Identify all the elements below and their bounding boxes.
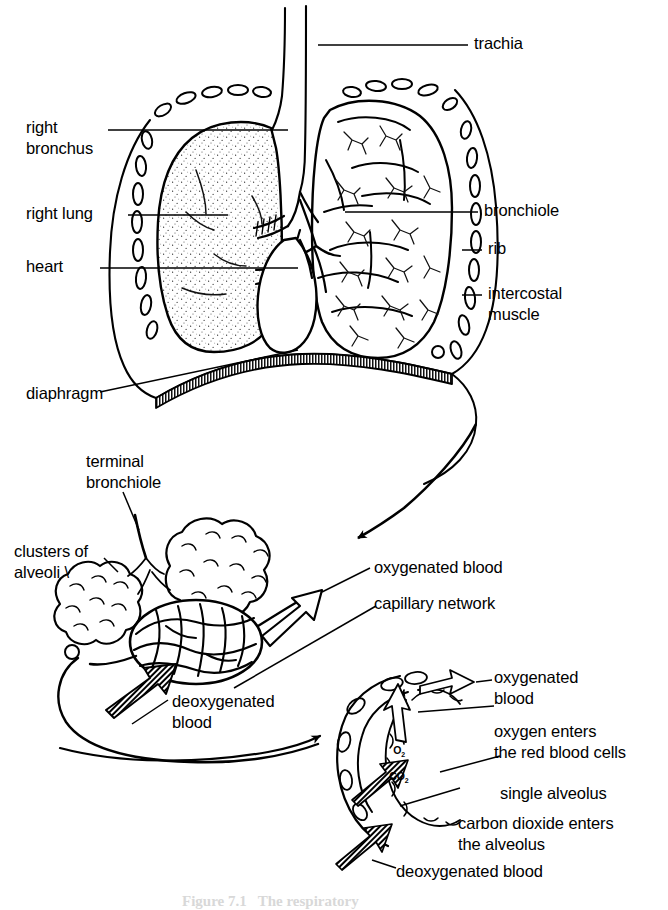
- label-clusters-line1: clusters of: [14, 542, 88, 561]
- label-carbon-dioxide-formula: CO2: [378, 760, 409, 797]
- label-diaphragm: diaphragm: [26, 384, 103, 403]
- carbon-dioxide-subscript: 2: [405, 777, 409, 784]
- label-deoxygenated-blood-2: deoxygenated blood: [396, 862, 543, 881]
- label-oxygenated-blood: oxygenated blood: [374, 558, 503, 577]
- label-right-bronchus-line2: bronchus: [26, 139, 93, 158]
- label-deoxygenated-line1: deoxygenated: [172, 692, 274, 711]
- label-clusters-line2: alveoli \: [14, 563, 69, 582]
- label-intercostal-line1: intercostal: [488, 284, 562, 303]
- label-intercostal-line2: muscle: [488, 305, 540, 324]
- oxygen-subscript: 2: [401, 751, 405, 758]
- label-co2-enters-line1: carbon dioxide enters: [458, 814, 614, 833]
- label-single-alveolus: single alveolus: [500, 784, 607, 803]
- figure-caption: Figure 7.1 The respiratory: [182, 893, 359, 910]
- label-bronchiole: bronchiole: [484, 201, 559, 220]
- label-heart: heart: [26, 257, 63, 276]
- label-right-bronchus-line1: right: [26, 118, 58, 137]
- label-right-lung: right lung: [26, 204, 93, 223]
- label-ox-blood-2-line1: oxygenated: [494, 668, 578, 687]
- label-deoxygenated-line2: blood: [172, 713, 212, 732]
- left-lung-shape: [312, 101, 452, 358]
- label-capillary-network: capillary network: [374, 594, 495, 613]
- carbon-dioxide-symbol: CO: [389, 770, 405, 782]
- label-oxygen-enters-line1: oxygen enters: [494, 722, 596, 741]
- label-trachea: trachia: [474, 34, 523, 53]
- label-terminal-bronchiole-line2: bronchiole: [86, 473, 161, 492]
- label-terminal-bronchiole-line1: terminal: [86, 452, 144, 471]
- label-co2-enters-line2: the alveolus: [458, 835, 545, 854]
- label-oxygen-enters-line2: the red blood cells: [494, 743, 626, 762]
- label-rib: rib: [488, 239, 506, 258]
- label-ox-blood-2-line2: blood: [494, 689, 534, 708]
